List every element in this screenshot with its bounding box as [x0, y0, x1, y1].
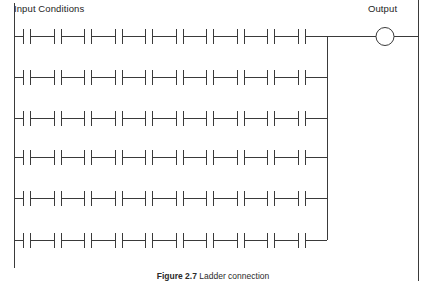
ladder-rung: [14, 191, 327, 206]
ladder-rung: [14, 111, 327, 126]
ladder-logic-diagram: [0, 0, 426, 281]
output-coil-icon: [376, 28, 394, 46]
figure-caption: Figure 2.7 Ladder connection: [0, 271, 426, 281]
ladder-rung: [14, 70, 327, 85]
figure-number: Figure 2.7: [157, 271, 197, 281]
ladder-rung: [14, 150, 327, 165]
ladder-rung: [14, 29, 327, 44]
figure-container: Input Conditions Output Figure 2.7 Ladde…: [0, 0, 426, 281]
ladder-rung: [14, 233, 327, 248]
figure-caption-text: Ladder connection: [197, 271, 269, 281]
